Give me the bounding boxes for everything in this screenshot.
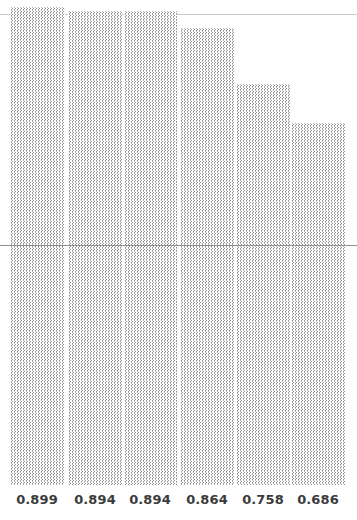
- bar-chart: 0.899 0.894 0.894 0.864 0.758 0.686: [0, 0, 357, 520]
- value-label-bar-4: 0.864: [177, 490, 237, 510]
- value-labels-row: 0.899 0.894 0.894 0.864 0.758 0.686: [0, 490, 357, 520]
- value-label-bar-6: 0.686: [288, 490, 348, 510]
- value-label-bar-2: 0.894: [65, 490, 125, 510]
- mid-gridline: [0, 245, 357, 246]
- bar-1[interactable]: [10, 7, 65, 485]
- bar-3[interactable]: [124, 11, 177, 485]
- value-label-bar-5: 0.758: [233, 490, 293, 510]
- bar-5[interactable]: [236, 84, 290, 485]
- value-label-bar-3: 0.894: [120, 490, 180, 510]
- bar-4[interactable]: [180, 28, 234, 485]
- bar-2[interactable]: [68, 11, 122, 485]
- plot-area: [0, 0, 357, 490]
- bar-6[interactable]: [291, 123, 346, 485]
- value-label-bar-1: 0.899: [7, 490, 67, 510]
